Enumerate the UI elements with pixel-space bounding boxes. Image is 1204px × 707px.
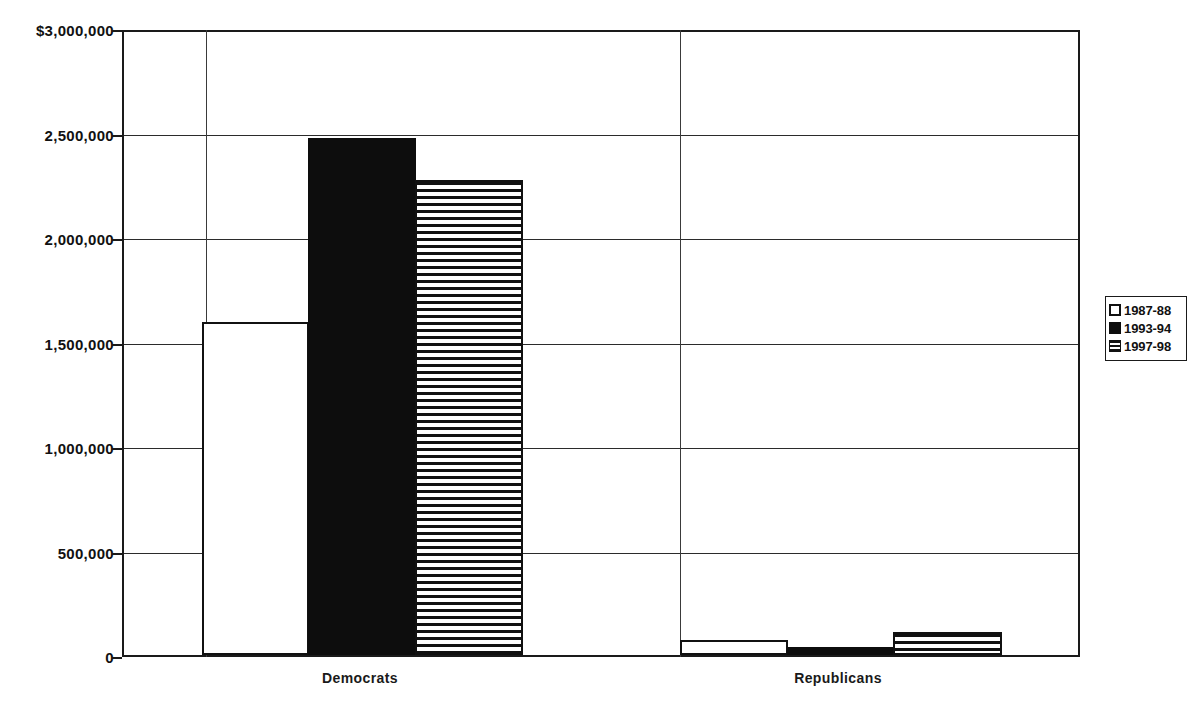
striped-square-icon [1109,340,1121,352]
y-tick-mark-1000000 [112,448,122,450]
legend-item-1987-88: 1987-88 [1109,302,1183,318]
y-tick-label-2000000: 2,000,000 [0,231,114,248]
bar-republicans-1987-88 [680,640,788,655]
y-tick-mark-2500000 [112,135,122,137]
bar-republicans-1993-94 [787,647,895,655]
legend-label-1993-94: 1993-94 [1124,321,1171,336]
gridline-2000000 [124,239,1080,240]
bar-democrats-1997-98 [415,180,523,655]
gridline-2500000 [124,135,1080,136]
y-tick-mark-500000 [112,553,122,555]
y-tick-label-0: 0 [0,649,114,666]
y-tick-mark-3000000 [112,30,122,32]
black-square-icon [1109,322,1121,334]
y-tick-mark-2000000 [112,239,122,241]
bar-republicans-1997-98 [893,632,1002,655]
gridline-3000000 [124,30,1080,32]
category-divider-middle [680,30,681,657]
plot-right-border [1078,30,1080,657]
legend-item-1993-94: 1993-94 [1109,320,1183,336]
y-tick-label-2500000: 2,500,000 [0,127,114,144]
x-axis-label-republicans: Republicans [794,670,882,686]
chart-legend: 1987-88 1993-94 1997-98 [1105,296,1187,361]
bar-democrats-1987-88 [202,322,309,655]
plot-area [122,30,1078,657]
y-tick-mark-1500000 [112,344,122,346]
legend-label-1997-98: 1997-98 [1124,339,1171,354]
bar-chart: $3,000,000 2,500,000 2,000,000 1,500,000… [0,0,1204,707]
x-axis-label-democrats: Democrats [322,670,398,686]
legend-item-1997-98: 1997-98 [1109,338,1183,354]
white-square-icon [1109,304,1121,316]
legend-label-1987-88: 1987-88 [1124,303,1171,318]
bar-democrats-1993-94 [308,138,416,655]
y-tick-mark-0 [112,657,122,659]
y-tick-label-500000: 500,000 [0,545,114,562]
y-tick-label-3000000: $3,000,000 [0,22,114,39]
y-tick-label-1500000: 1,500,000 [0,336,114,353]
y-tick-label-1000000: 1,000,000 [0,440,114,457]
